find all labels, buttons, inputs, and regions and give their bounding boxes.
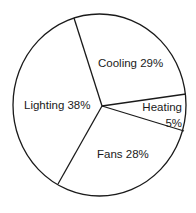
pie-chart: Cooling 29% Lighting 38% Fans 28% Heatin…	[0, 0, 196, 213]
slice-label-heating-value: 5%	[165, 117, 182, 129]
slice-label-heating-name: Heating	[142, 101, 182, 113]
slice-label-cooling: Cooling 29%	[98, 57, 163, 69]
slice-label-lighting: Lighting 38%	[24, 99, 91, 111]
slice-label-fans: Fans 28%	[97, 148, 149, 160]
